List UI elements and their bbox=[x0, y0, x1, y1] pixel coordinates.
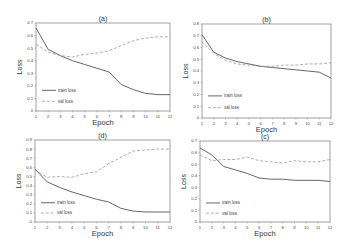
x-tick-label: 4 bbox=[236, 121, 239, 126]
series-line-val-loss bbox=[35, 149, 170, 177]
x-tick-label: 8 bbox=[120, 225, 123, 230]
legend-label: val loss bbox=[222, 211, 238, 216]
chart-panel-a: 00.10.20.30.40.50.60.7123456789101112Epo… bbox=[16, 15, 173, 127]
y-tick-label: 0 bbox=[31, 108, 34, 113]
chart-title: (a) bbox=[99, 15, 108, 23]
chart-panel-b: 00.10.20.30.40.50.60.70.8123456789101112… bbox=[182, 16, 334, 134]
y-tick-label: 0 bbox=[195, 219, 198, 224]
x-tick-label: 2 bbox=[47, 114, 50, 119]
plot-area-c bbox=[200, 141, 330, 222]
x-tick-label: 12 bbox=[168, 114, 173, 119]
x-tick-label: 2 bbox=[213, 121, 216, 126]
x-tick-label: 2 bbox=[46, 225, 49, 230]
x-tick-label: 4 bbox=[71, 225, 74, 230]
y-tick-label: 0.5 bbox=[27, 46, 33, 51]
y-tick-label: 0.6 bbox=[193, 45, 199, 50]
y-tick-label: 0.4 bbox=[191, 173, 197, 178]
chart-title: (c) bbox=[261, 133, 269, 141]
legend-label: train loss bbox=[57, 200, 76, 205]
x-tick-label: 12 bbox=[168, 225, 173, 230]
x-tick-label: 1 bbox=[199, 225, 202, 230]
x-tick-label: 5 bbox=[246, 225, 249, 230]
x-tick-label: 9 bbox=[293, 225, 296, 230]
x-tick-label: 3 bbox=[224, 121, 227, 126]
y-tick-label: 0.6 bbox=[27, 33, 33, 38]
y-tick-label: 0.4 bbox=[27, 58, 33, 63]
series-line-val-loss bbox=[200, 155, 330, 163]
x-tick-label: 12 bbox=[328, 225, 333, 230]
legend-label: train loss bbox=[58, 88, 77, 93]
y-tick-label: 0.2 bbox=[27, 83, 33, 88]
y-tick-label: 0.2 bbox=[193, 92, 199, 97]
x-tick-label: 10 bbox=[305, 121, 310, 126]
y-tick-label: 0.7 bbox=[26, 156, 32, 161]
x-tick-label: 10 bbox=[143, 114, 148, 119]
y-tick-label: 0.9 bbox=[26, 137, 32, 142]
y-tick-label: 0.7 bbox=[27, 20, 33, 25]
series-line-train-loss bbox=[35, 169, 170, 212]
x-tick-label: 3 bbox=[59, 114, 62, 119]
y-tick-label: 0.4 bbox=[26, 183, 32, 188]
x-tick-label: 5 bbox=[84, 114, 87, 119]
y-tick-label: 0.7 bbox=[191, 138, 197, 143]
x-tick-label: 10 bbox=[304, 225, 309, 230]
x-tick-label: 9 bbox=[132, 114, 135, 119]
x-tick-label: 8 bbox=[120, 114, 123, 119]
y-tick-label: 0.6 bbox=[191, 150, 197, 155]
legend-label: train loss bbox=[224, 93, 243, 98]
x-tick-label: 3 bbox=[58, 225, 61, 230]
x-tick-label: 4 bbox=[234, 225, 237, 230]
x-tick-label: 11 bbox=[317, 121, 322, 126]
chart-title: (b) bbox=[262, 16, 271, 24]
x-tick-label: 2 bbox=[211, 225, 214, 230]
x-tick-label: 8 bbox=[282, 225, 285, 230]
y-axis-label: Loss bbox=[16, 59, 23, 74]
y-tick-label: 0.5 bbox=[26, 174, 32, 179]
y-tick-label: 0.5 bbox=[193, 57, 199, 62]
y-tick-label: 0.1 bbox=[27, 96, 33, 101]
y-tick-label: 0.1 bbox=[191, 208, 197, 213]
y-axis-label: Loss bbox=[182, 63, 189, 78]
y-tick-label: 0.3 bbox=[193, 80, 199, 85]
x-tick-label: 5 bbox=[248, 121, 251, 126]
series-line-train-loss bbox=[202, 35, 331, 78]
x-tick-label: 3 bbox=[222, 225, 225, 230]
y-tick-label: 0 bbox=[30, 219, 33, 224]
y-tick-label: 0.3 bbox=[27, 71, 33, 76]
y-tick-label: 0.8 bbox=[26, 147, 32, 152]
x-axis-label: Epoch bbox=[92, 118, 113, 127]
legend-label: val loss bbox=[57, 210, 73, 215]
y-tick-label: 0.8 bbox=[193, 21, 199, 26]
x-tick-label: 11 bbox=[156, 225, 161, 230]
y-tick-label: 0.3 bbox=[26, 192, 32, 197]
x-tick-label: 9 bbox=[132, 225, 135, 230]
x-tick-label: 10 bbox=[143, 225, 148, 230]
plot-area-a bbox=[36, 23, 170, 111]
series-line-val-loss bbox=[202, 42, 331, 67]
y-tick-label: 0.2 bbox=[26, 201, 32, 206]
y-tick-label: 0.4 bbox=[193, 68, 199, 73]
plot-area-d bbox=[35, 140, 170, 222]
y-tick-label: 0.3 bbox=[191, 185, 197, 190]
y-tick-label: 0.1 bbox=[193, 104, 199, 109]
legend-label: train loss bbox=[222, 200, 241, 205]
y-axis-label: Loss bbox=[180, 174, 187, 189]
chart-panel-c: 00.10.20.30.40.50.60.7123456789101112Epo… bbox=[180, 133, 333, 238]
x-tick-label: 8 bbox=[283, 121, 286, 126]
x-tick-label: 1 bbox=[35, 114, 38, 119]
chart-title: (d) bbox=[98, 132, 107, 140]
x-tick-label: 9 bbox=[295, 121, 298, 126]
y-tick-label: 0.2 bbox=[191, 196, 197, 201]
x-tick-label: 11 bbox=[316, 225, 321, 230]
y-tick-label: 0.1 bbox=[26, 210, 32, 215]
y-tick-label: 0.7 bbox=[193, 33, 199, 38]
series-line-train-loss bbox=[200, 148, 330, 182]
x-axis-label: Epoch bbox=[254, 229, 275, 238]
chart-panel-d: 00.10.20.30.40.50.60.70.80.9123456789101… bbox=[15, 132, 173, 238]
series-line-train-loss bbox=[36, 28, 170, 95]
x-tick-label: 5 bbox=[83, 225, 86, 230]
x-tick-label: 11 bbox=[156, 114, 161, 119]
x-axis-label: Epoch bbox=[92, 229, 113, 238]
x-tick-label: 12 bbox=[329, 121, 334, 126]
x-tick-label: 1 bbox=[34, 225, 37, 230]
